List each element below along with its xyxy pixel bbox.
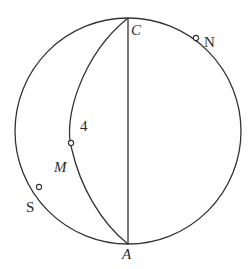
label-S: S [26, 199, 34, 215]
point-S-marker [36, 184, 41, 189]
point-N-marker [193, 35, 198, 40]
label-N: N [204, 34, 215, 50]
label-C: C [131, 22, 142, 38]
label-A: A [121, 246, 132, 262]
sphere-diagram: C N 4 M S A [0, 0, 251, 269]
point-M-marker [68, 140, 73, 145]
label-4: 4 [80, 118, 88, 134]
inner-arc-CMA [69, 18, 128, 244]
label-M: M [53, 159, 68, 175]
